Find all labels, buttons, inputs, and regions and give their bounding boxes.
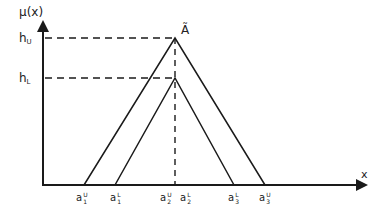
tick-a2-upper: aU2 [160,191,172,205]
h-lower-label: hL [19,72,31,86]
tick-a1-lower: aL1 [110,191,121,205]
tick-a3-upper: aU3 [259,191,271,205]
y-axis-arrow-icon [37,20,49,32]
fuzzy-set-label: Ã [181,24,189,36]
fuzzy-number-diagram [0,0,384,210]
tick-a1-upper: aU1 [76,191,88,205]
tick-a3-lower: aL3 [228,191,239,205]
y-axis-label: μ(x) [19,6,43,18]
x-axis-label: x [361,169,368,180]
h-upper-label: hU [19,32,32,46]
tick-a2-lower: aL2 [180,191,191,205]
